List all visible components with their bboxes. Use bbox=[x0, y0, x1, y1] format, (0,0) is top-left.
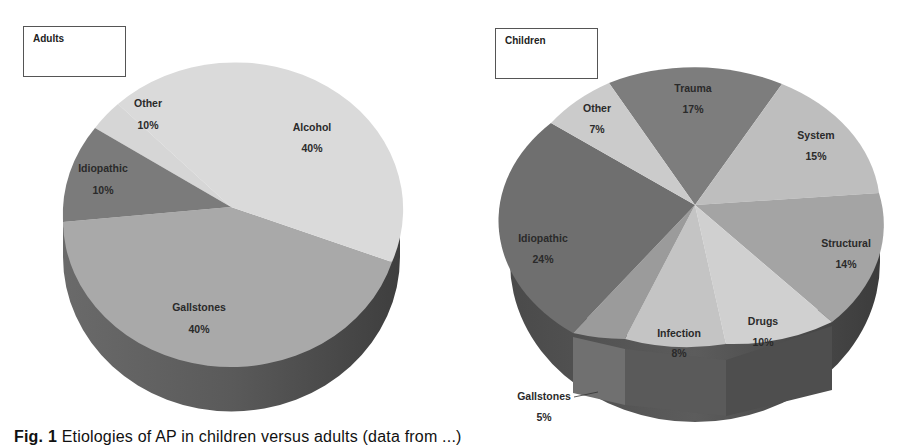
children-title: Children bbox=[505, 35, 546, 46]
adults-label-idiopathic-name: Idiopathic bbox=[78, 162, 128, 174]
adults-label-other-name: Other bbox=[134, 97, 162, 109]
children-label-structural-name: Structural bbox=[821, 237, 871, 249]
children-label-infection-name: Infection bbox=[657, 327, 701, 339]
adults-title: Adults bbox=[33, 33, 64, 44]
figure-caption: Fig. 1 Etiologies of AP in children vers… bbox=[14, 428, 462, 446]
caption-label: Fig. 1 bbox=[14, 428, 57, 445]
children-label-trauma-name: Trauma bbox=[674, 82, 712, 94]
children-label-other-pct: 7% bbox=[589, 123, 605, 135]
children-label-system-pct: 15% bbox=[805, 150, 827, 162]
children-label-idiopathic-name: Idiopathic bbox=[518, 232, 568, 244]
children-label-drugs-pct: 10% bbox=[752, 336, 774, 348]
children-side-infection bbox=[625, 349, 726, 416]
children-label-idiopathic-pct: 24% bbox=[532, 253, 554, 265]
adults-label-alcohol-name: Alcohol bbox=[293, 121, 332, 133]
adults-label-other-pct: 10% bbox=[137, 119, 159, 131]
children-label-structural-pct: 14% bbox=[835, 258, 857, 270]
children-label-drugs-name: Drugs bbox=[748, 315, 778, 327]
caption-text: Etiologies of AP in children versus adul… bbox=[57, 428, 462, 445]
adults-label-gallstones-name: Gallstones bbox=[172, 301, 226, 313]
children-title-box: Children bbox=[495, 28, 598, 79]
adults-pie: Other 10% Alcohol 40% Idiopathic 10% Gal… bbox=[63, 62, 403, 411]
children-pie: Trauma 17% System 15% Structural 14% Dru… bbox=[498, 67, 883, 423]
children-label-infection-pct: 8% bbox=[671, 347, 687, 359]
children-label-other-name: Other bbox=[583, 102, 611, 114]
children-label-system-name: System bbox=[797, 129, 834, 141]
adults-label-idiopathic-pct: 10% bbox=[92, 184, 114, 196]
children-side-gallstones bbox=[573, 337, 625, 405]
children-label-trauma-pct: 17% bbox=[682, 103, 704, 115]
adults-label-alcohol-pct: 40% bbox=[301, 142, 323, 154]
children-label-gallstones-pct: 5% bbox=[536, 411, 552, 423]
children-label-gallstones-name: Gallstones bbox=[517, 390, 571, 402]
adults-label-gallstones-pct: 40% bbox=[188, 323, 210, 335]
adults-title-box: Adults bbox=[23, 26, 126, 77]
